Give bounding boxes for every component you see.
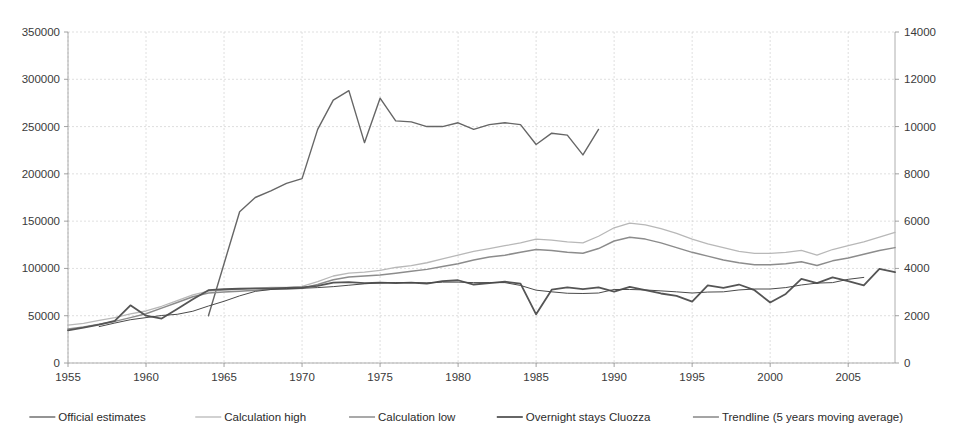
x-tick-label: 1960: [133, 371, 159, 383]
series-line-official-estimates: [208, 91, 598, 316]
legend-item: Trendline (5 years moving average): [693, 411, 903, 423]
y-tick-label-right: 14000: [904, 26, 936, 38]
axes: [68, 32, 895, 363]
y-tick-label-left: 0: [54, 357, 60, 369]
chart-container: 0500001000001500002000002500003000003500…: [0, 0, 957, 436]
legend-item-label: Calculation low: [378, 411, 456, 423]
y-tick-label-right: 4000: [904, 262, 930, 274]
y-tick-label-right: 6000: [904, 215, 930, 227]
series-line-calculation-high: [68, 223, 895, 325]
y-tick-label-left: 150000: [22, 215, 60, 227]
y-tick-label-left: 200000: [22, 168, 60, 180]
x-tick-label: 2000: [757, 371, 783, 383]
y-tick-label-right: 8000: [904, 168, 930, 180]
y-tick-label-left: 250000: [22, 121, 60, 133]
legend-item-label: Overnight stays Cluozza: [526, 411, 651, 423]
y-tick-label-right: 10000: [904, 121, 936, 133]
legend-item: Calculation low: [349, 411, 456, 423]
y-tick-label-right: 0: [904, 357, 910, 369]
x-tick-label: 1985: [523, 371, 549, 383]
x-tick-label: 1970: [289, 371, 315, 383]
legend-item: Overnight stays Cluozza: [497, 411, 651, 423]
y-tick-label-left: 100000: [22, 262, 60, 274]
legend-item-label: Calculation high: [224, 411, 306, 423]
y-tick-label-left: 350000: [22, 26, 60, 38]
y-axis-left-ticks: 0500001000001500002000002500003000003500…: [22, 26, 68, 369]
y-tick-label-right: 2000: [904, 310, 930, 322]
legend-item: Calculation high: [195, 411, 306, 423]
x-tick-label: 1980: [445, 371, 471, 383]
y-tick-label-left: 50000: [28, 310, 60, 322]
series-line-trendline-5-years-moving-average: [99, 277, 864, 326]
legend-item-label: Official estimates: [58, 411, 146, 423]
legend-item: Official estimates: [29, 411, 146, 423]
y-tick-label-right: 12000: [904, 73, 936, 85]
x-tick-label: 1990: [601, 371, 627, 383]
x-tick-label: 2005: [835, 371, 861, 383]
x-tick-label: 1965: [211, 371, 237, 383]
y-tick-label-left: 300000: [22, 73, 60, 85]
gridlines: [68, 32, 895, 363]
x-tick-label: 1995: [679, 371, 705, 383]
legend: Official estimatesCalculation highCalcul…: [29, 411, 903, 423]
x-axis-ticks: 1955196019651970197519801985199019952000…: [55, 363, 861, 383]
x-tick-label: 1955: [55, 371, 81, 383]
series-line-overnight-stays-cluozza: [68, 269, 895, 330]
x-tick-label: 1975: [367, 371, 393, 383]
line-chart: 0500001000001500002000002500003000003500…: [0, 0, 957, 436]
y-axis-right-ticks: 02000400060008000100001200014000: [895, 26, 936, 369]
legend-item-label: Trendline (5 years moving average): [722, 411, 903, 423]
